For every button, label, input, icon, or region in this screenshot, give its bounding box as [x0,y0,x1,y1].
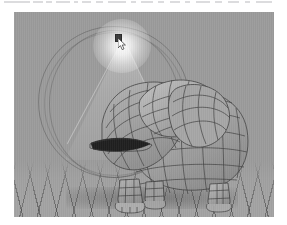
toolbar-item[interactable] [131,1,136,3]
toolbar-strip[interactable] [0,0,287,5]
toolbar-item[interactable] [215,1,222,3]
toolbar-item[interactable] [82,1,91,3]
mouse-cursor [118,38,127,51]
toolbar-item[interactable] [256,1,272,3]
toolbar-item[interactable] [196,1,210,3]
perspective-viewport[interactable] [14,12,274,217]
toolbar-item[interactable] [141,1,153,3]
toolbar-item[interactable] [56,1,70,3]
toolbar-item[interactable] [170,1,180,3]
toolbar-item[interactable] [96,1,103,3]
toolbar-item[interactable] [4,1,30,3]
hippo-rear-leg [206,183,231,212]
toolbar-item[interactable] [158,1,164,3]
toolbar-item[interactable] [33,1,43,3]
toolbar-item[interactable] [228,1,239,3]
toolbar-item[interactable] [185,1,190,3]
toolbar-item[interactable] [46,1,52,3]
hippo-head-side [168,84,230,147]
hippo-snout [84,112,142,161]
app-window [0,0,287,225]
toolbar-item[interactable] [245,1,250,3]
toolbar-item[interactable] [74,1,78,3]
toolbar-item[interactable] [108,1,126,3]
